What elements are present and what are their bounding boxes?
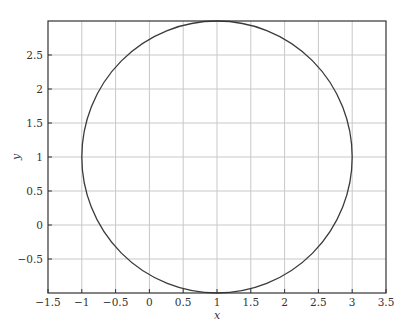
x-tick-label: −0.5	[103, 296, 129, 308]
y-tick-label: 0	[36, 219, 43, 231]
y-axis-label: y	[10, 153, 23, 161]
x-tick-label: −1.5	[35, 296, 61, 308]
x-tick-label: 2	[281, 296, 288, 308]
y-tick-label: 1	[36, 151, 43, 163]
x-axis-ticks: −1.5−1−0.500.511.522.533.5	[35, 289, 394, 308]
x-tick-label: 3	[349, 296, 356, 308]
x-tick-label: 1	[214, 296, 221, 308]
x-tick-label: 0.5	[175, 296, 192, 308]
x-tick-label: 0	[146, 296, 153, 308]
y-tick-label: −0.5	[18, 253, 44, 265]
x-axis-label: x	[214, 309, 221, 322]
chart-figure: −1.5−1−0.500.511.522.533.5 −0.500.511.52…	[0, 0, 406, 335]
x-tick-label: 3.5	[378, 296, 395, 308]
y-tick-label: 0.5	[26, 185, 43, 197]
y-tick-label: 2	[36, 83, 43, 95]
y-tick-label: 2.5	[26, 49, 43, 61]
grid-lines	[48, 21, 386, 293]
x-tick-label: 2.5	[310, 296, 327, 308]
x-tick-label: −1	[74, 296, 89, 308]
x-tick-label: 1.5	[242, 296, 259, 308]
y-tick-label: 1.5	[26, 117, 43, 129]
